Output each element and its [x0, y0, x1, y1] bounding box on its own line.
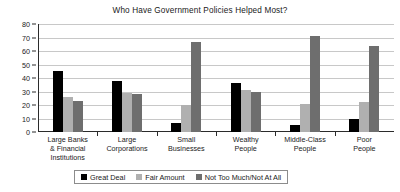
- x-axis-category-line: Middle-Class: [275, 135, 334, 144]
- x-axis-category-label: WealthyPeople: [216, 135, 275, 153]
- y-tick-label: 30: [22, 87, 30, 96]
- x-axis-category-line: Institutions: [38, 153, 97, 162]
- x-axis-category-line: People: [275, 144, 334, 153]
- y-tick-mark: [32, 51, 36, 52]
- x-axis-category-label: Middle-ClassPeople: [275, 135, 334, 153]
- bars-layer: [38, 24, 394, 132]
- bar: [369, 46, 379, 132]
- legend-swatch-icon: [81, 174, 87, 180]
- bar: [132, 94, 142, 132]
- bar: [181, 105, 191, 132]
- legend-item[interactable]: Great Deal: [81, 173, 125, 182]
- bar-group: [157, 24, 216, 132]
- bar-group: [97, 24, 156, 132]
- y-tick-label: 40: [22, 74, 30, 83]
- y-tick-label: 70: [22, 33, 30, 42]
- x-axis-category-line: Large: [97, 135, 156, 144]
- bar: [310, 36, 320, 132]
- bar: [359, 102, 369, 132]
- x-axis-category-line: & Financial: [38, 144, 97, 153]
- legend-label: Fair Amount: [145, 173, 184, 182]
- legend-item[interactable]: Not Too Much/Not At All: [196, 173, 282, 182]
- bar-chart: Who Have Government Policies Helped Most…: [0, 0, 400, 192]
- y-tick-mark: [32, 78, 36, 79]
- y-tick-mark: [32, 91, 36, 92]
- bar-group: [275, 24, 334, 132]
- y-tick-label: 80: [22, 20, 30, 29]
- bar: [53, 71, 63, 132]
- bar-group: [335, 24, 394, 132]
- legend-swatch-icon: [196, 174, 202, 180]
- y-tick-label: 60: [22, 47, 30, 56]
- x-axis-category-line: Corporations: [97, 144, 156, 153]
- bar-group: [38, 24, 97, 132]
- x-axis-category-label: SmallBusinesses: [157, 135, 216, 153]
- x-axis-labels: Large Banks& FinancialInstitutionsLargeC…: [38, 135, 394, 167]
- bar: [171, 123, 181, 132]
- x-axis-category-label: LargeCorporations: [97, 135, 156, 153]
- legend-swatch-icon: [136, 174, 142, 180]
- y-tick-mark: [32, 132, 36, 133]
- bar: [122, 93, 132, 132]
- y-tick-mark: [32, 118, 36, 119]
- bar: [112, 81, 122, 132]
- bar: [241, 90, 251, 132]
- y-tick-label: 0: [26, 128, 30, 137]
- y-tick-mark: [32, 37, 36, 38]
- bar: [300, 104, 310, 132]
- y-tick-label: 20: [22, 101, 30, 110]
- bar: [73, 101, 83, 132]
- x-axis-category-line: People: [335, 144, 394, 153]
- bar: [231, 83, 241, 132]
- x-axis-category-line: Businesses: [157, 144, 216, 153]
- x-axis-category-label: PoorPeople: [335, 135, 394, 153]
- x-axis-category-line: Poor: [335, 135, 394, 144]
- chart-legend: Great DealFair AmountNot Too Much/Not At…: [74, 170, 288, 184]
- bar: [191, 42, 201, 132]
- y-tick-mark: [32, 105, 36, 106]
- y-tick-label: 10: [22, 114, 30, 123]
- x-axis-category-label: Large Banks& FinancialInstitutions: [38, 135, 97, 163]
- bar: [63, 97, 73, 132]
- x-axis-category-line: Wealthy: [216, 135, 275, 144]
- legend-label: Not Too Much/Not At All: [205, 173, 282, 182]
- y-axis-ticks: 01020304050607080: [0, 24, 36, 132]
- y-tick-mark: [32, 64, 36, 65]
- legend-label: Great Deal: [90, 173, 125, 182]
- x-axis-category-line: People: [216, 144, 275, 153]
- bar: [290, 125, 300, 132]
- y-tick-mark: [32, 24, 36, 25]
- x-axis-category-line: Small: [157, 135, 216, 144]
- chart-title: Who Have Government Policies Helped Most…: [0, 6, 400, 15]
- bar: [349, 119, 359, 133]
- x-axis-category-line: Large Banks: [38, 135, 97, 144]
- bar-group: [216, 24, 275, 132]
- bar: [251, 92, 261, 133]
- y-tick-label: 50: [22, 60, 30, 69]
- legend-item[interactable]: Fair Amount: [136, 173, 184, 182]
